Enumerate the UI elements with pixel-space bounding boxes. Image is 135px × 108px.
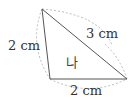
- triangle-diagram: 2 cm 3 cm 2 cm 나: [0, 0, 135, 108]
- side-label-bottom: 2 cm: [70, 83, 102, 98]
- side-label-left: 2 cm: [8, 38, 40, 53]
- arc-hypotenuse-lower: [105, 44, 127, 79]
- triangle: [42, 9, 127, 79]
- triangle-name: 나: [66, 55, 78, 70]
- side-label-hypotenuse: 3 cm: [86, 26, 118, 41]
